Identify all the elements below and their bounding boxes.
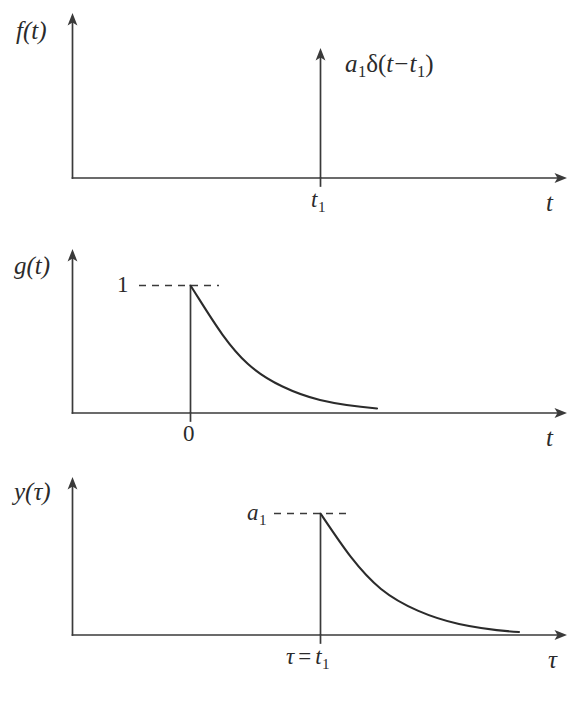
panel-f-graphics [68,13,567,186]
panel-y-tick-t-subscript: 1 [322,655,330,672]
impulse-delta-symbol: δ [366,50,378,77]
impulse-close-paren: ) [425,50,433,77]
panel-g-graphics [68,249,567,421]
panel-y-amplitude-subscript: 1 [259,511,267,528]
panel-y-x-axis-label: τ [548,647,557,672]
panel-y-graphics [68,477,567,643]
impulse-shift-subscript: 1 [416,62,425,81]
figure-drawing-layer [0,0,585,701]
panel-g-y-axis-label: g(t) [14,253,50,278]
impulse-coefficient: a [345,50,358,77]
panel-f-tick-label: t1 [311,188,325,214]
panel-f-x-axis-label: t [546,190,553,215]
impulse-minus-sign: − [393,50,409,77]
panel-y-amplitude-base: a [247,500,259,525]
panel-y-amplitude-label: a1 [247,501,267,527]
panel-f-impulse-annotation: a1δ(t−t1) [345,51,433,81]
panel-g-decay-curve [191,286,378,409]
panel-f-tick-label-subscript: 1 [317,198,325,215]
panel-y-tick-equals: = [294,644,315,669]
panel-g-amplitude-label: 1 [117,273,129,296]
panel-y-y-axis-label: y(τ) [14,479,51,504]
panel-y-tick-tau: τ [286,644,294,669]
panel-g-x-axis-label: t [546,425,553,450]
panel-f-y-axis-label: f(t) [16,18,47,43]
panel-g-tick-label: 0 [183,422,195,445]
panel-y-tick-t: t [315,644,321,669]
figure-root: f(t) t t1 a1δ(t−t1) g(t) t 1 0 y(τ) τ a1… [0,0,585,701]
impulse-coefficient-subscript: 1 [358,62,367,81]
panel-y-tick-label: τ=t1 [286,645,330,671]
panel-y-decay-curve [321,514,520,633]
